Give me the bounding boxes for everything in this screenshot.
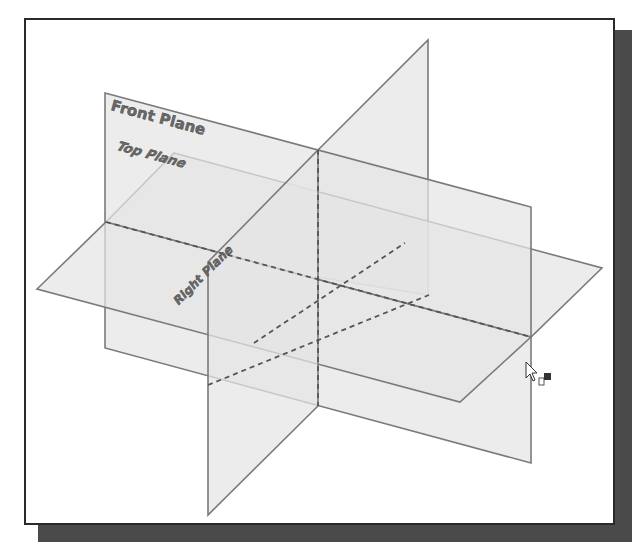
planes-diagram: Front Plane Top Plane Right Plane: [0, 0, 640, 554]
